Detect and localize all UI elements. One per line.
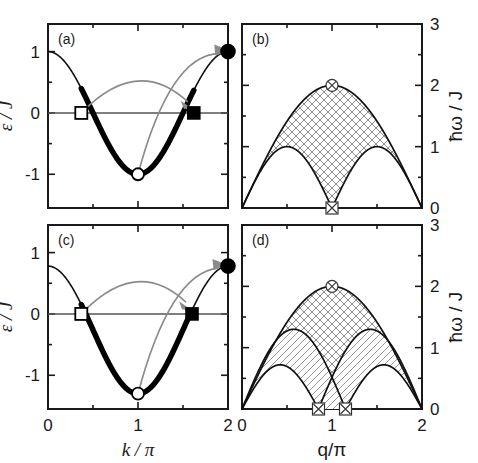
y-tick-label: 0: [31, 104, 40, 123]
y-tick-label: -1: [25, 165, 40, 184]
x-axis-title-c: k / π: [122, 439, 155, 460]
four-panel-figure: (a)10-1ε / J (b)0123ħω / J (c)10-1012k /…: [0, 0, 478, 463]
x-tick-label: 0: [43, 416, 52, 435]
x-tick-label: 2: [417, 416, 426, 435]
y-tick-label: 2: [430, 277, 439, 296]
open-circle-marker: [132, 388, 144, 400]
y-axis-title-a: ε / J: [0, 99, 16, 131]
filled-circle-marker: [221, 45, 235, 59]
y-tick-label: 3: [430, 15, 439, 34]
y-tick-label: 0: [430, 400, 439, 419]
x-tick-label: 0: [237, 416, 246, 435]
panel-label-d: (d): [252, 232, 269, 248]
open-square-marker: [75, 308, 87, 320]
filled-circle-marker: [221, 259, 235, 273]
open-circle-marker: [132, 168, 144, 180]
y-tick-label: 1: [430, 138, 439, 157]
open-square-marker: [75, 107, 87, 119]
x-axis-title-d: q/π: [318, 439, 347, 460]
figure-root: (a)10-1ε / J (b)0123ħω / J (c)10-1012k /…: [0, 0, 478, 463]
y-tick-label: 1: [31, 43, 40, 62]
y-axis-title-d: ħω / J: [445, 292, 466, 343]
y-tick-label: 0: [31, 305, 40, 324]
filled-square-marker: [186, 308, 198, 320]
panel-label-b: (b): [252, 31, 269, 47]
x-tick-label: 1: [133, 416, 142, 435]
y-axis-title-c: ε / J: [0, 300, 16, 332]
x-tick-label: 2: [223, 416, 232, 435]
y-tick-label: 3: [430, 216, 439, 235]
panel-label-a: (a): [58, 31, 75, 47]
y-tick-label: 2: [430, 76, 439, 95]
y-tick-label: 1: [430, 339, 439, 358]
x-tick-label: 1: [327, 416, 336, 435]
y-tick-label: 1: [31, 244, 40, 263]
y-axis-title-b: ħω / J: [445, 91, 466, 142]
filled-square-marker: [188, 107, 200, 119]
panel-label-c: (c): [58, 232, 74, 248]
y-tick-label: -1: [25, 366, 40, 385]
